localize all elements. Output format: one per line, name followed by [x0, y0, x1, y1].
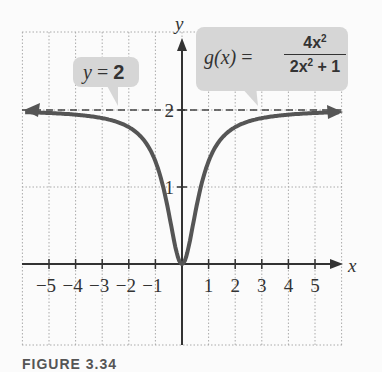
function-name: g(x) — [204, 46, 236, 68]
asymptote-callout-pointer — [106, 84, 118, 106]
y-axis-label: y — [173, 13, 184, 34]
x-axis-arrow-icon — [330, 259, 343, 269]
x-tick-label: −3 — [89, 275, 109, 296]
numerator: 4x2 — [284, 33, 346, 55]
curve-right-arrow-icon — [327, 105, 343, 119]
x-tick-label: −4 — [62, 275, 83, 296]
x-axis-label: x — [347, 255, 357, 276]
function-callout: g(x) = 4x2 2x2 + 1 — [196, 27, 348, 91]
asymptote-eq: = — [97, 61, 108, 83]
asymptote-rhs: 2 — [113, 61, 124, 83]
asymptote-lhs: y — [83, 61, 92, 83]
function-fraction: 4x2 2x2 + 1 — [284, 33, 346, 77]
denominator: 2x2 + 1 — [284, 55, 346, 76]
x-tick-label: −2 — [116, 275, 136, 296]
y-axis-arrow-icon — [177, 38, 187, 51]
curve-left-arrow-icon — [24, 103, 40, 117]
x-tick-label: 4 — [284, 275, 294, 296]
x-tick-label: 1 — [204, 275, 214, 296]
x-tick-label: 5 — [310, 275, 320, 296]
function-eq: = — [241, 46, 252, 68]
asymptote-callout: y = 2 — [73, 57, 139, 87]
x-tick-label: −5 — [36, 275, 56, 296]
x-tick-label: 2 — [230, 275, 240, 296]
figure-caption: FIGURE 3.34 — [22, 356, 117, 372]
tick-labels: −5−4−3−2−11234512 — [36, 100, 320, 296]
y-tick-label: 2 — [165, 100, 175, 121]
x-tick-label: −1 — [142, 275, 162, 296]
x-tick-label: 3 — [257, 275, 267, 296]
